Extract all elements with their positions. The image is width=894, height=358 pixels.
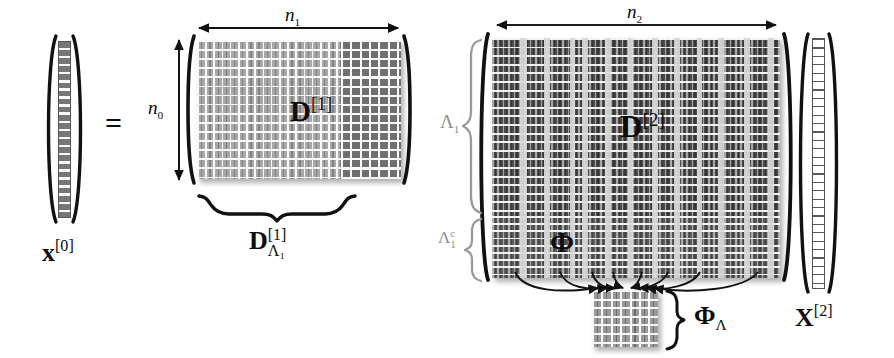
label-lambda1-sub: 1	[454, 123, 460, 135]
label-n1-base: n	[285, 4, 295, 25]
label-D1-sup: [1]	[311, 94, 332, 114]
label-n2-sub: 2	[637, 13, 643, 25]
X2-vector-cells	[812, 38, 825, 289]
label-X2-base: X	[795, 303, 814, 332]
label-phi-lambda-base: Φ	[694, 301, 716, 330]
label-lambda1c-base: Λ	[438, 228, 450, 247]
label-D1-base: D	[290, 95, 311, 127]
label-x0: x[0]	[42, 238, 74, 266]
phi-lambda-block	[592, 290, 658, 347]
label-D1: D[1]	[290, 95, 332, 126]
label-n1-sub: 1	[295, 16, 301, 28]
x0-vector-cells	[58, 41, 71, 218]
label-lambda1-base: Λ	[440, 111, 454, 132]
label-x0-sup: [0]	[55, 237, 74, 254]
label-X2-sup: [2]	[814, 302, 833, 319]
label-phi-lambda-sub: Λ	[716, 316, 727, 333]
label-X2: X[2]	[795, 303, 833, 331]
D2-phi-block	[492, 216, 780, 278]
label-D2-base: D	[620, 109, 642, 144]
label-D1-lambda: D [1] Λ₁	[249, 227, 286, 260]
label-n0-sub: 0	[158, 109, 164, 121]
label-D2-sup: [2]	[642, 109, 664, 130]
label-D1-lambda-sub: Λ₁	[268, 243, 287, 259]
D1-right-block	[341, 40, 401, 179]
phi-column-stripes	[492, 216, 780, 278]
label-lambda1c-sub: 1	[450, 239, 456, 250]
label-n0-base: n	[148, 97, 158, 118]
label-D1-lambda-base: D	[249, 226, 268, 255]
label-phi: Φ	[550, 228, 574, 257]
equals-sign: =	[105, 108, 122, 138]
label-n0: n0	[148, 98, 163, 121]
label-D2: D[2]	[620, 110, 665, 142]
label-n2-base: n	[627, 1, 637, 22]
label-lambda1: Λ1	[440, 112, 459, 135]
label-n1: n1	[285, 5, 300, 28]
label-lambda1c: Λ c 1	[438, 228, 456, 250]
label-x0-base: x	[42, 238, 55, 267]
label-D1-lambda-sup: [1]	[268, 227, 287, 243]
label-n2: n2	[627, 2, 642, 25]
label-phi-lambda: ΦΛ	[694, 303, 727, 333]
figure-canvas: x[0] = n0 n1 n2 D[1] D [1] Λ₁ Λ1 Λ c 1 D…	[0, 0, 894, 358]
